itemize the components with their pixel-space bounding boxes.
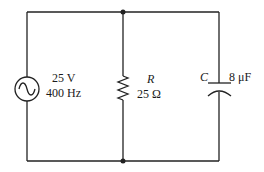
source-frequency-label: 400 Hz [46,86,81,100]
resistor-value-label: 25 Ω [137,87,161,101]
resistor-symbol-label: R [146,72,155,86]
capacitor-symbol-label: C [200,70,209,84]
circuit-diagram: 25 V 400 Hz R 25 Ω C 8 μF [0,0,264,172]
ac-source-icon [15,77,39,101]
source-voltage-label: 25 V [52,71,76,85]
resistor-icon [118,76,128,100]
junction-bottom [121,159,126,164]
capacitor-value-label: 8 μF [229,70,251,84]
junction-top [121,10,126,15]
